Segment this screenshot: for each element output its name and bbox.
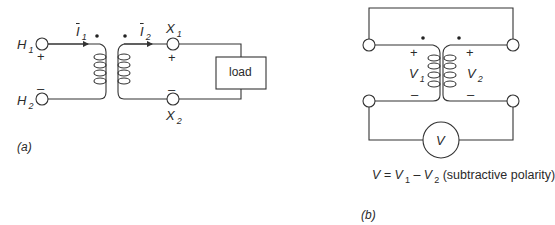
caption-b: (b) — [361, 209, 376, 221]
label-x2-polarity: – — [168, 83, 175, 96]
polarity-equation: V = V1 – V2 (subtractive polarity) — [372, 169, 555, 182]
label-i1: I1 — [76, 25, 87, 38]
load-label: load — [229, 66, 252, 78]
label-v2: V2 — [467, 67, 483, 80]
label-h2: H2 — [17, 94, 33, 107]
label-x1: X1 — [166, 22, 182, 35]
terminal-x1 — [167, 38, 179, 50]
polarity-dot-secondary-b — [457, 36, 461, 40]
polarity-dot-primary-a — [95, 34, 99, 38]
label-i2: I2 — [140, 25, 151, 38]
label-v2-minus: – — [467, 88, 474, 101]
label-h2-polarity: – — [37, 82, 44, 95]
label-h1-polarity: + — [37, 50, 45, 63]
label-v1: V1 — [409, 67, 425, 80]
caption-a: (a) — [17, 141, 32, 153]
voltmeter-label: V — [436, 134, 445, 147]
polarity-dot-secondary-a — [123, 34, 127, 38]
label-v1-minus: – — [411, 88, 418, 101]
label-x1-polarity: + — [168, 51, 176, 64]
label-h1: H1 — [17, 38, 33, 51]
label-v2-plus: + — [466, 46, 474, 59]
label-v1-plus: + — [410, 46, 418, 59]
polarity-dot-primary-b — [421, 36, 425, 40]
label-x2: X2 — [166, 109, 182, 122]
